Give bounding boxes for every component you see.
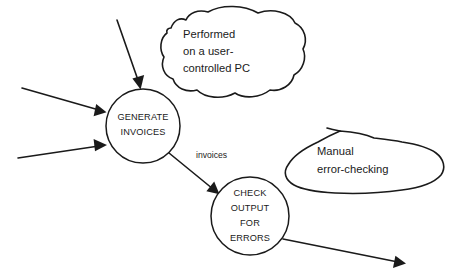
annotation-performed-line2: on a user- [183,45,234,57]
annotation-performed-line3: controlled PC [183,62,250,74]
input-flow-top-arrow [117,20,144,90]
process-check-output-label-line1: CHECK [234,188,268,198]
process-generate-invoices-label-line1: GENERATE [117,112,168,122]
process-check-output-label-line2: OUTPUT [231,203,270,213]
output-flow-right-arrowhead [393,256,406,268]
input-flow-upper-left-line [22,88,99,110]
output-flow-right-line [283,239,398,262]
input-flow-lower-left-line [18,146,99,158]
diagram-canvas: Performed on a user- controlled PC Manua… [0,0,458,276]
annotation-performed-line1: Performed [183,28,235,40]
invoices-flow-arrowhead [206,182,219,195]
annotation-manual-error-checking: Manual error-checking [285,128,443,193]
input-flow-top-arrowhead [132,75,144,90]
process-check-output-label-line3: FOR [240,218,260,228]
annotation-manual-line1: Manual [317,145,354,157]
cloud-2-tail [327,128,340,131]
input-flow-lower-left-arrowhead [94,139,107,151]
annotation-manual-line2: error-checking [317,163,389,175]
diagram-svg: Performed on a user- controlled PC Manua… [0,0,458,276]
output-flow-right-arrow [283,239,406,268]
invoices-flow-label: invoices [196,150,227,160]
process-check-output-for-errors[interactable]: CHECK OUTPUT FOR ERRORS [211,177,289,255]
annotation-performed-on-pc: Performed on a user- controlled PC [161,6,306,97]
input-flow-lower-left-arrow [18,139,107,158]
process-check-output-label-line4: ERRORS [230,233,270,243]
process-generate-invoices-label-line2: INVOICES [120,127,165,137]
process-generate-invoices[interactable]: GENERATE INVOICES [106,89,180,163]
input-flow-top-line [117,20,139,83]
input-flow-upper-left-arrowhead [94,104,107,116]
process-generate-invoices-circle[interactable] [106,89,180,163]
input-flow-upper-left-arrow [22,88,107,116]
